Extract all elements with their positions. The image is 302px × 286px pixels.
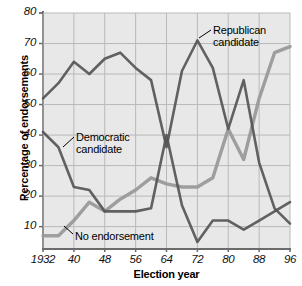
x-axis-title: Election year bbox=[43, 268, 290, 280]
annotation-democratic-candidate: Democratic candidate bbox=[76, 131, 130, 155]
annotation-republican-candidate: Republican candidate bbox=[213, 24, 266, 48]
annotation-no-endorsement: No endorsement bbox=[75, 230, 154, 242]
chart-figure: 1020304050607080 19324048566472808896 Pe… bbox=[0, 0, 302, 286]
y-axis-title: Percentage of endorsements bbox=[18, 28, 30, 228]
leader-republican bbox=[199, 30, 211, 38]
leader-democratic bbox=[63, 137, 74, 147]
